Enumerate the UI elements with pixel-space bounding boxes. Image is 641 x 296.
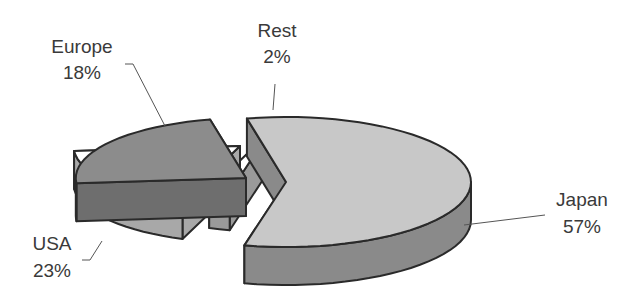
label-rest-name: Rest (257, 20, 297, 41)
slice-usa-cut-face (76, 178, 246, 221)
label-rest-value: 2% (263, 46, 291, 67)
label-europe-value: 18% (63, 62, 101, 83)
label-usa-value: 23% (33, 260, 71, 281)
slice-usa-top (76, 120, 246, 184)
leader-line-japan (464, 215, 545, 225)
leader-line-usa (82, 241, 102, 260)
leader-line-rest (273, 84, 275, 110)
label-japan-name: Japan (556, 189, 608, 210)
pie-slices (74, 117, 471, 285)
pie-chart: Europe 18% Rest 2% Japan 57% USA 23% (0, 0, 641, 296)
label-usa-name: USA (32, 233, 71, 254)
label-europe-name: Europe (51, 36, 112, 57)
slice-usa-side (76, 178, 77, 221)
leader-line-europe (125, 64, 165, 126)
label-japan-value: 57% (563, 216, 601, 237)
